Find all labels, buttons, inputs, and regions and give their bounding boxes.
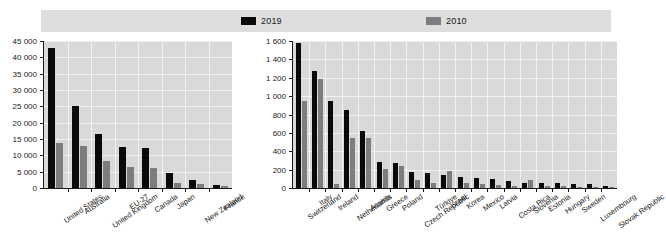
legend-label-2019: 2019 <box>261 16 282 26</box>
y-tick <box>289 41 292 42</box>
bar-2010-united-states <box>56 143 63 188</box>
x-tick <box>585 189 586 192</box>
y-tick-label: 1 400 <box>242 55 286 64</box>
y-tick <box>40 139 43 140</box>
bar-2019-new-zealand <box>189 180 196 188</box>
legend-item-2019[interactable]: 2019 <box>241 10 282 32</box>
bar-2019-korea <box>458 177 463 188</box>
bar-2010-netherlands <box>350 138 355 188</box>
bar-2010-austria <box>366 138 371 188</box>
y-tick <box>40 106 43 107</box>
x-tick <box>68 189 69 192</box>
x-tick <box>91 189 92 192</box>
bar-2019-united-kingdom <box>95 134 102 188</box>
bar-2019-italy <box>312 71 317 188</box>
bar-2010-slovenia <box>528 180 533 188</box>
legend-swatch-2019 <box>241 17 256 25</box>
y-tick-label: 0 <box>242 184 286 193</box>
bar-2010-poland <box>399 166 404 188</box>
x-axis-label-japan: Japan <box>175 192 197 211</box>
bar-2010-united-kingdom <box>103 161 110 188</box>
y-tick <box>40 41 43 42</box>
x-tick <box>162 189 163 192</box>
y-tick <box>40 155 43 156</box>
y-tick-label: 1 600 <box>242 37 286 46</box>
y-tick-label: 20 000 <box>0 118 37 127</box>
bar-2019-ireland <box>328 101 333 188</box>
x-tick <box>390 189 391 192</box>
bar-2019-switzerland <box>296 43 301 188</box>
x-tick <box>471 189 472 192</box>
right-chart-plot-area <box>293 41 617 188</box>
x-tick <box>536 189 537 192</box>
x-tick <box>342 189 343 192</box>
right-chart-y-axis <box>292 41 293 188</box>
bar-2010-italy <box>318 79 323 188</box>
bar-2010-greece <box>383 169 388 188</box>
x-tick <box>138 189 139 192</box>
y-tick-label: 35 000 <box>0 69 37 78</box>
y-tick <box>40 90 43 91</box>
bar-2019-costa-rica <box>506 181 511 188</box>
left-chart-bars <box>44 41 232 188</box>
x-tick <box>439 189 440 192</box>
legend-item-2010[interactable]: 2010 <box>426 10 467 32</box>
right-chart-bars <box>293 41 617 188</box>
y-tick-label: 1 200 <box>242 73 286 82</box>
y-tick-label: 40 000 <box>0 53 37 62</box>
x-tick <box>358 189 359 192</box>
y-tick <box>40 123 43 124</box>
y-tick-label: 0 <box>0 184 37 193</box>
legend-label-2010: 2010 <box>446 16 467 26</box>
y-tick-label: 45 000 <box>0 37 37 46</box>
bar-2019-austria <box>360 131 365 188</box>
bar-2019-eu-27 <box>119 147 126 188</box>
y-tick-label: 5 000 <box>0 167 37 176</box>
bar-2019-mexico <box>474 178 479 188</box>
y-tick <box>40 188 43 189</box>
bar-2010-canada <box>150 168 157 188</box>
bar-2019-greece <box>377 162 382 188</box>
y-tick-label: 15 000 <box>0 135 37 144</box>
left-chart-plot-area <box>44 41 232 188</box>
bar-2010-israel <box>447 171 452 188</box>
y-tick <box>289 78 292 79</box>
x-tick <box>520 189 521 192</box>
y-tick-label: 200 <box>242 165 286 174</box>
x-tick <box>601 189 602 192</box>
x-tick <box>455 189 456 192</box>
bar-2019-united-states <box>48 48 55 188</box>
bar-2010-switzerland <box>302 101 307 188</box>
x-tick <box>568 189 569 192</box>
bar-2019-netherlands <box>344 110 349 188</box>
y-tick-label: 10 000 <box>0 151 37 160</box>
y-tick <box>289 59 292 60</box>
y-tick <box>289 151 292 152</box>
y-tick-label: 400 <box>242 147 286 156</box>
y-tick <box>40 57 43 58</box>
x-tick <box>423 189 424 192</box>
legend-swatch-2010 <box>426 17 441 25</box>
x-tick <box>504 189 505 192</box>
y-tick <box>40 74 43 75</box>
x-tick <box>185 189 186 192</box>
y-tick-label: 30 000 <box>0 86 37 95</box>
bar-2010-czech-republic <box>415 180 420 188</box>
y-tick <box>289 96 292 97</box>
bar-2019-japan <box>166 173 173 188</box>
y-tick <box>289 133 292 134</box>
x-tick <box>325 189 326 192</box>
x-tick <box>374 189 375 192</box>
bar-2010-eu-27 <box>127 167 134 188</box>
bar-2019-israel <box>441 175 446 188</box>
x-tick <box>406 189 407 192</box>
x-tick <box>115 189 116 192</box>
y-tick <box>289 188 292 189</box>
y-tick <box>40 172 43 173</box>
bar-2010-australia <box>80 146 87 188</box>
y-tick <box>289 115 292 116</box>
x-tick <box>552 189 553 192</box>
chart-legend: 20192010 <box>41 10 611 32</box>
x-tick <box>209 189 210 192</box>
